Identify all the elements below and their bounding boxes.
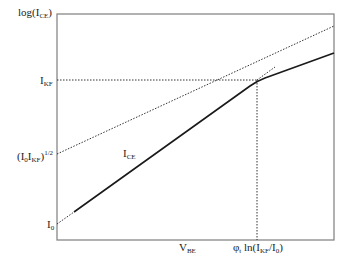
low-injection-extrapolation: [57, 212, 74, 224]
plot-frame: [57, 14, 334, 240]
y-tick-sqrt-i0-ikf: (I0IKF)1/2: [17, 147, 53, 166]
x-label-vbe: VBE: [179, 241, 196, 257]
x-label-knee: φt ln(IKF/I0): [233, 241, 283, 257]
y-tick-i0: I0: [47, 218, 54, 234]
y-tick-ikf: IKF: [40, 74, 53, 90]
ice-curve: [74, 53, 334, 212]
y-axis-label: log(ICE): [18, 6, 52, 22]
curve-label-ice: ICE: [123, 147, 136, 163]
high-injection-asymptote: [57, 26, 334, 154]
